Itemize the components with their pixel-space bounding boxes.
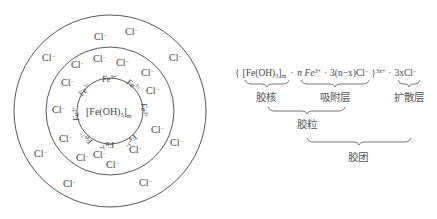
label-colloidal-particle: 胶粒: [297, 118, 318, 130]
brace-micelle: [307, 138, 411, 145]
svg-text:Fe3+: Fe3+: [125, 77, 142, 94]
svg-text:Cl−: Cl−: [76, 152, 89, 163]
label-nucleus: 胶核: [256, 91, 277, 103]
svg-text:Cl−: Cl−: [52, 104, 65, 115]
label-micelle: 胶团: [348, 151, 368, 163]
brace-diffuse-layer: [398, 80, 420, 87]
svg-text:Cl−: Cl−: [59, 133, 72, 144]
svg-text:Cl−: Cl−: [93, 149, 106, 160]
svg-text:Cl−: Cl−: [116, 57, 129, 68]
brace-nucleus: [245, 80, 289, 87]
svg-text:Cl−: Cl−: [42, 52, 55, 63]
svg-text:Cl−: Cl−: [125, 26, 138, 37]
svg-text:Cl−: Cl−: [106, 159, 119, 170]
svg-text:Fe3+: Fe3+: [78, 129, 95, 146]
core-label: [Fe(OH)3]m: [86, 106, 132, 119]
svg-text:Cl−: Cl−: [61, 77, 74, 88]
svg-text:Cl−: Cl−: [139, 177, 152, 188]
micelle-formula: {[Fe(OH)3]m·n Fe3+·3(n−x)Cl−}3x+·3xCl−: [235, 68, 417, 79]
brace-colloidal-particle: [268, 107, 345, 114]
svg-text:Cl−: Cl−: [129, 144, 142, 155]
svg-text:Fe3+: Fe3+: [71, 107, 81, 121]
brace-adsorption-layer: [301, 80, 369, 87]
svg-text:Cl−: Cl−: [71, 59, 84, 70]
svg-text:Cl−: Cl−: [93, 53, 106, 64]
svg-text:Cl−: Cl−: [141, 67, 154, 78]
svg-text:Cl−: Cl−: [63, 178, 76, 189]
svg-text:Cl−: Cl−: [146, 85, 159, 96]
svg-text:Cl−: Cl−: [34, 148, 47, 159]
svg-text:Fe3+: Fe3+: [102, 74, 116, 84]
colloid-diagram: [Fe(OH)3]m Fe3+ Fe3+ Fe3+ Fe3+ Fe3+ Fe3+…: [0, 0, 437, 219]
svg-text:Cl−: Cl−: [151, 124, 164, 135]
svg-text:Cl−: Cl−: [169, 52, 182, 63]
svg-text:Fe3+: Fe3+: [139, 103, 149, 117]
label-diffuse-layer: 扩散层: [394, 91, 424, 103]
svg-text:Cl−: Cl−: [94, 31, 107, 42]
label-adsorption-layer: 吸附层: [320, 91, 350, 103]
svg-text:Cl−: Cl−: [170, 137, 183, 148]
